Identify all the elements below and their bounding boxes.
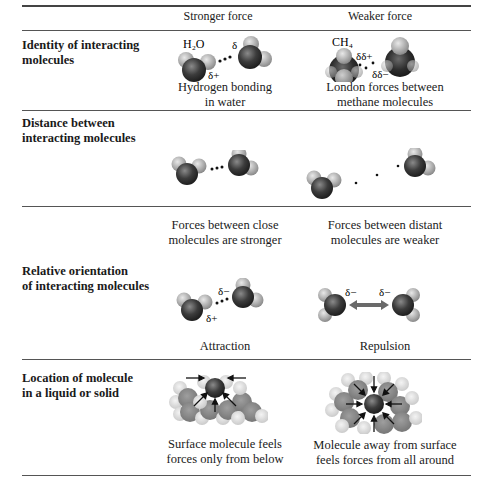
caption-repulsion: Repulsion — [300, 339, 470, 354]
column-header-weaker: Weaker force — [305, 9, 455, 24]
row-label-orientation: Relative orientation of interacting mole… — [22, 264, 149, 294]
delta-minus-left-label: δ− — [345, 286, 356, 298]
row-divider-3 — [22, 359, 471, 360]
caption-attraction: Attraction — [140, 339, 310, 354]
caption-close-molecules: Forces between close molecules are stron… — [140, 218, 310, 248]
h2o-formula: H₂O — [183, 37, 205, 51]
column-header-stronger: Stronger force — [143, 9, 293, 24]
attraction-diagram: δ+ δ− — [170, 278, 270, 328]
repulsion-diagram: δ− δ− — [315, 283, 425, 328]
delta-minus-label: δ− — [218, 285, 229, 297]
delta-delta-minus-label: δδ− — [372, 68, 389, 80]
methane-london-force-diagram: CH₄ δδ+ δδ− — [318, 32, 458, 82]
row-divider-1 — [22, 110, 471, 111]
delta-minus-label: δ — [232, 39, 237, 51]
interior-molecule-diagram — [322, 372, 422, 434]
table-bottom-rule — [22, 475, 471, 476]
header-rule — [22, 30, 471, 31]
delta-plus-label: δ+ — [206, 312, 217, 324]
caption-london-forces: London forces between methane molecules — [300, 80, 470, 110]
surface-molecule-diagram — [168, 372, 268, 428]
surface-molecule — [205, 378, 225, 398]
caption-hydrogen-bonding: Hydrogen bonding in water — [140, 80, 310, 110]
delta-minus-right-label: δ− — [379, 286, 390, 298]
caption-interior-molecule: Molecule away from surface feels forces … — [293, 438, 477, 468]
row-label-identity: Identity of interacting molecules — [22, 38, 139, 68]
delta-delta-plus-label: δδ+ — [356, 50, 373, 62]
row-label-distance: Distance between interacting molecules — [22, 116, 136, 146]
close-molecules-diagram — [165, 150, 265, 200]
row-divider-2 — [22, 206, 471, 207]
distant-molecules-diagram — [300, 148, 450, 203]
caption-distant-molecules: Forces between distant molecules are wea… — [300, 218, 470, 248]
table-top-rule — [22, 5, 471, 7]
repulsion-double-arrow-icon — [349, 300, 389, 310]
water-hydrogen-bond-diagram: H₂O δ+ δ — [160, 32, 290, 82]
caption-surface-molecule: Surface molecule feels forces only from … — [140, 437, 310, 467]
interior-molecule — [364, 394, 384, 414]
row-label-location: Location of molecule in a liquid or soli… — [22, 371, 133, 401]
ch4-formula: CH₄ — [332, 35, 353, 49]
